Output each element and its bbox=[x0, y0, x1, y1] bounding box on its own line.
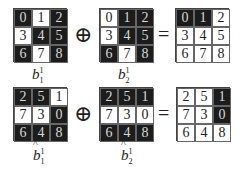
grid-cell: 5 bbox=[50, 27, 68, 45]
grid-cell: 0 bbox=[136, 106, 154, 124]
grid-cell: 6 bbox=[176, 45, 194, 63]
grid-cell: 2 bbox=[136, 9, 154, 27]
label-b1: b11 bbox=[32, 66, 44, 85]
grid-cell: 6 bbox=[100, 124, 118, 142]
equals-sign: = bbox=[158, 24, 169, 44]
grid-cell: 2 bbox=[212, 9, 230, 27]
grid-cell: 7 bbox=[118, 45, 136, 63]
grid-cell: 7 bbox=[177, 106, 195, 124]
grid-cell: 2 bbox=[177, 88, 195, 106]
grid-cell: 7 bbox=[194, 45, 212, 63]
grid-cell: 0 bbox=[14, 9, 32, 27]
grid-cell: 7 bbox=[14, 106, 32, 124]
grid-cell: 5 bbox=[32, 88, 50, 106]
grid-cell: 7 bbox=[32, 45, 50, 63]
grid-cell: 1 bbox=[194, 9, 212, 27]
grid-cell: 0 bbox=[100, 9, 118, 27]
label-b2: b21 bbox=[118, 66, 130, 85]
grid-cell: 2 bbox=[100, 88, 118, 106]
label-bhat2: b21 bbox=[121, 147, 133, 166]
grid-cell: 6 bbox=[177, 124, 195, 142]
grid-cell: 3 bbox=[118, 106, 136, 124]
grid-cell: 4 bbox=[194, 27, 212, 45]
grid-cell: 8 bbox=[136, 124, 154, 142]
equals-sign: = bbox=[158, 103, 169, 123]
grid-cell: 8 bbox=[136, 45, 154, 63]
grid-cell: 3 bbox=[100, 27, 118, 45]
grid-cell: 2 bbox=[14, 88, 32, 106]
grid-cell: 6 bbox=[14, 45, 32, 63]
grid-cell: 3 bbox=[176, 27, 194, 45]
grid-cell: 0 bbox=[50, 106, 68, 124]
grid-b1: 012345678 bbox=[13, 8, 67, 62]
grid-cell: 7 bbox=[100, 106, 118, 124]
grid-cell: 6 bbox=[100, 45, 118, 63]
grid-cell: 8 bbox=[213, 124, 231, 142]
grid-cell: 8 bbox=[212, 45, 230, 63]
grid-bhat1: 251730648 bbox=[13, 87, 67, 141]
grid-cell: 4 bbox=[118, 27, 136, 45]
grid-cell: 5 bbox=[118, 88, 136, 106]
grid-cell: 3 bbox=[14, 27, 32, 45]
grid-cell: 8 bbox=[50, 124, 68, 142]
xor-operator: ⊕ bbox=[74, 103, 92, 125]
grid-cell: 4 bbox=[32, 27, 50, 45]
grid-cell: 5 bbox=[212, 27, 230, 45]
grid-bhat2: 251730648 bbox=[99, 87, 153, 141]
grid-cell: 0 bbox=[213, 106, 231, 124]
label-bhat1: b11 bbox=[33, 147, 45, 166]
grid-cell: 1 bbox=[118, 9, 136, 27]
grid-b2: 012345678 bbox=[99, 8, 153, 62]
grid-cell: 1 bbox=[50, 88, 68, 106]
grid-cell: 5 bbox=[136, 27, 154, 45]
grid-cell: 4 bbox=[195, 124, 213, 142]
grid-cell: 1 bbox=[32, 9, 50, 27]
grid-cell: 3 bbox=[32, 106, 50, 124]
grid-cell: 3 bbox=[195, 106, 213, 124]
grid-cell: 6 bbox=[14, 124, 32, 142]
grid-cell: 1 bbox=[136, 88, 154, 106]
grid-result-1: 012345678 bbox=[175, 8, 229, 62]
grid-cell: 5 bbox=[195, 88, 213, 106]
grid-cell: 2 bbox=[50, 9, 68, 27]
grid-cell: 0 bbox=[176, 9, 194, 27]
grid-cell: 1 bbox=[213, 88, 231, 106]
grid-cell: 8 bbox=[50, 45, 68, 63]
grid-result-2: 251730648 bbox=[176, 87, 230, 141]
xor-operator: ⊕ bbox=[74, 24, 92, 46]
